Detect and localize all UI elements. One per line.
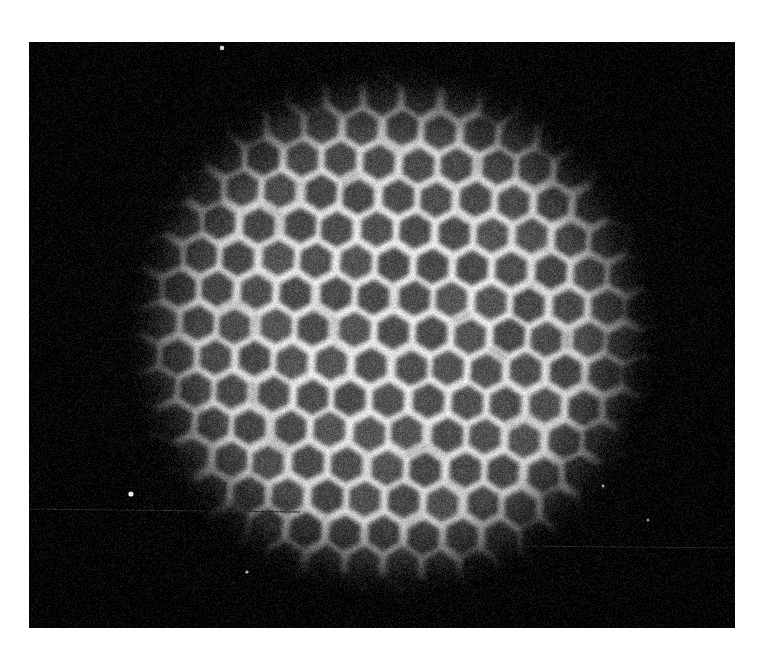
hexagonal-lattice-photograph xyxy=(29,42,735,628)
page-root xyxy=(0,0,759,654)
hexagonal-lattice-canvas xyxy=(29,42,735,628)
